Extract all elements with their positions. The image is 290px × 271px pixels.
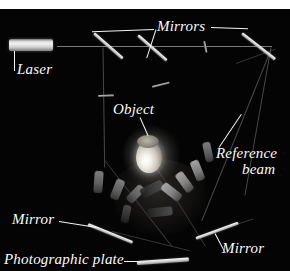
photograph-area: Mirrors Laser Object Reference beam Mirr…	[0, 9, 290, 271]
label-object: Object	[113, 102, 154, 118]
label-mirror-bottom-right: Mirror	[222, 241, 264, 257]
mirrors-leader-left	[92, 29, 154, 32]
laser-tube	[9, 39, 53, 51]
mirror-small-left	[98, 94, 114, 97]
label-reference-beam: Reference beam	[216, 146, 288, 177]
label-mirrors: Mirrors	[157, 19, 205, 35]
mirror-small-center	[152, 82, 170, 88]
mirrors-leader-right	[211, 27, 248, 29]
object-top-cap	[137, 135, 159, 148]
beam-vertical-left	[103, 47, 106, 167]
scatter-segment-left-1	[93, 171, 104, 194]
laser-leader-line	[14, 51, 15, 71]
label-laser: Laser	[17, 62, 52, 78]
label-reference-beam-line1: Reference	[216, 145, 277, 161]
beam-reference-diagonal	[201, 49, 271, 221]
photographic-plate	[137, 257, 189, 265]
holography-setup-figure: Mirrors Laser Object Reference beam Mirr…	[0, 0, 290, 271]
label-mirror-bottom-left: Mirror	[12, 212, 54, 228]
beam-laser-horizontal	[57, 46, 272, 47]
photographic-plate-leader-line	[124, 261, 140, 262]
scan-top-margin	[0, 0, 290, 9]
label-reference-beam-line2: beam	[242, 162, 275, 178]
label-photographic-plate: Photographic plate	[4, 252, 124, 268]
scatter-segment-right-4	[202, 141, 214, 162]
